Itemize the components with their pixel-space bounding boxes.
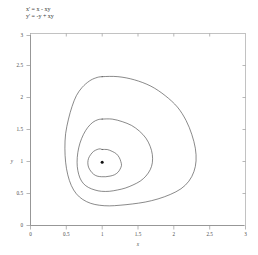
frame-top-ticks [66, 34, 209, 37]
orbit-curve [77, 119, 153, 192]
y-axis-title: y [10, 158, 14, 164]
orbit-layer [65, 76, 196, 205]
y-tick-label: 2.5 [17, 62, 24, 68]
plot-canvas: 0 0.5 1 1.5 2 2.5 3 0 0.5 1 1.5 2 2.5 3 … [0, 0, 258, 255]
y-tick-label: 0 [20, 222, 23, 228]
phase-portrait-figure: x' = x - xy y' = -y + xy [0, 0, 258, 255]
x-tick-label: 3 [244, 231, 247, 237]
x-tick-labels: 0 0.5 1 1.5 2 2.5 3 [29, 231, 247, 237]
x-axis-title: x [136, 241, 140, 247]
x-tick-label: 2 [173, 231, 176, 237]
y-tick-label: 2 [20, 94, 23, 100]
orbit-curve [88, 149, 122, 177]
x-tick-label: 0.5 [63, 231, 70, 237]
x-tick-label: 2.5 [206, 231, 213, 237]
y-tick-label: 0.5 [17, 190, 24, 196]
x-tick-label: 1 [101, 231, 104, 237]
x-tick-label: 0 [29, 231, 32, 237]
y-tick-label: 1.5 [17, 126, 24, 132]
orbit-curve [65, 76, 196, 205]
y-tick-label: 1 [20, 158, 23, 164]
equilibrium-point [101, 161, 104, 164]
x-axis-ticks [31, 226, 246, 230]
y-tick-labels: 0 0.5 1 1.5 2 2.5 3 [17, 32, 24, 228]
y-tick-label: 3 [20, 32, 23, 38]
x-tick-label: 1.5 [135, 231, 142, 237]
y-axis-ticks [27, 36, 31, 226]
frame-right-ticks [243, 66, 246, 194]
